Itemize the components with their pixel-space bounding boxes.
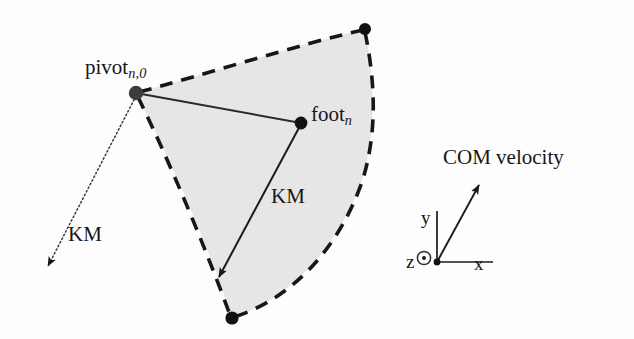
- diagram-svg: [0, 0, 634, 339]
- out-of-page-dot-icon: [422, 256, 426, 260]
- foot-point-dot: [295, 117, 308, 130]
- top-right-vertex-dot: [359, 23, 371, 35]
- figure-canvas: pivotn,0 footn KM KM COM velocity y x z: [0, 0, 634, 339]
- axis-label-z: z: [406, 252, 414, 271]
- com-velocity-arrow: [437, 185, 479, 262]
- bottom-vertex-dot: [225, 311, 238, 324]
- pivot-label: pivotn,0: [85, 57, 147, 81]
- com-velocity-label: COM velocity: [443, 147, 564, 168]
- km-label-middle: KM: [271, 186, 305, 207]
- km-label-left: KM: [68, 224, 102, 245]
- pivot-point-dot: [129, 86, 143, 100]
- axis-label-x: x: [474, 254, 484, 273]
- axis-label-y: y: [421, 208, 431, 227]
- support-region-fill: [136, 29, 373, 318]
- foot-label: footn: [311, 104, 352, 128]
